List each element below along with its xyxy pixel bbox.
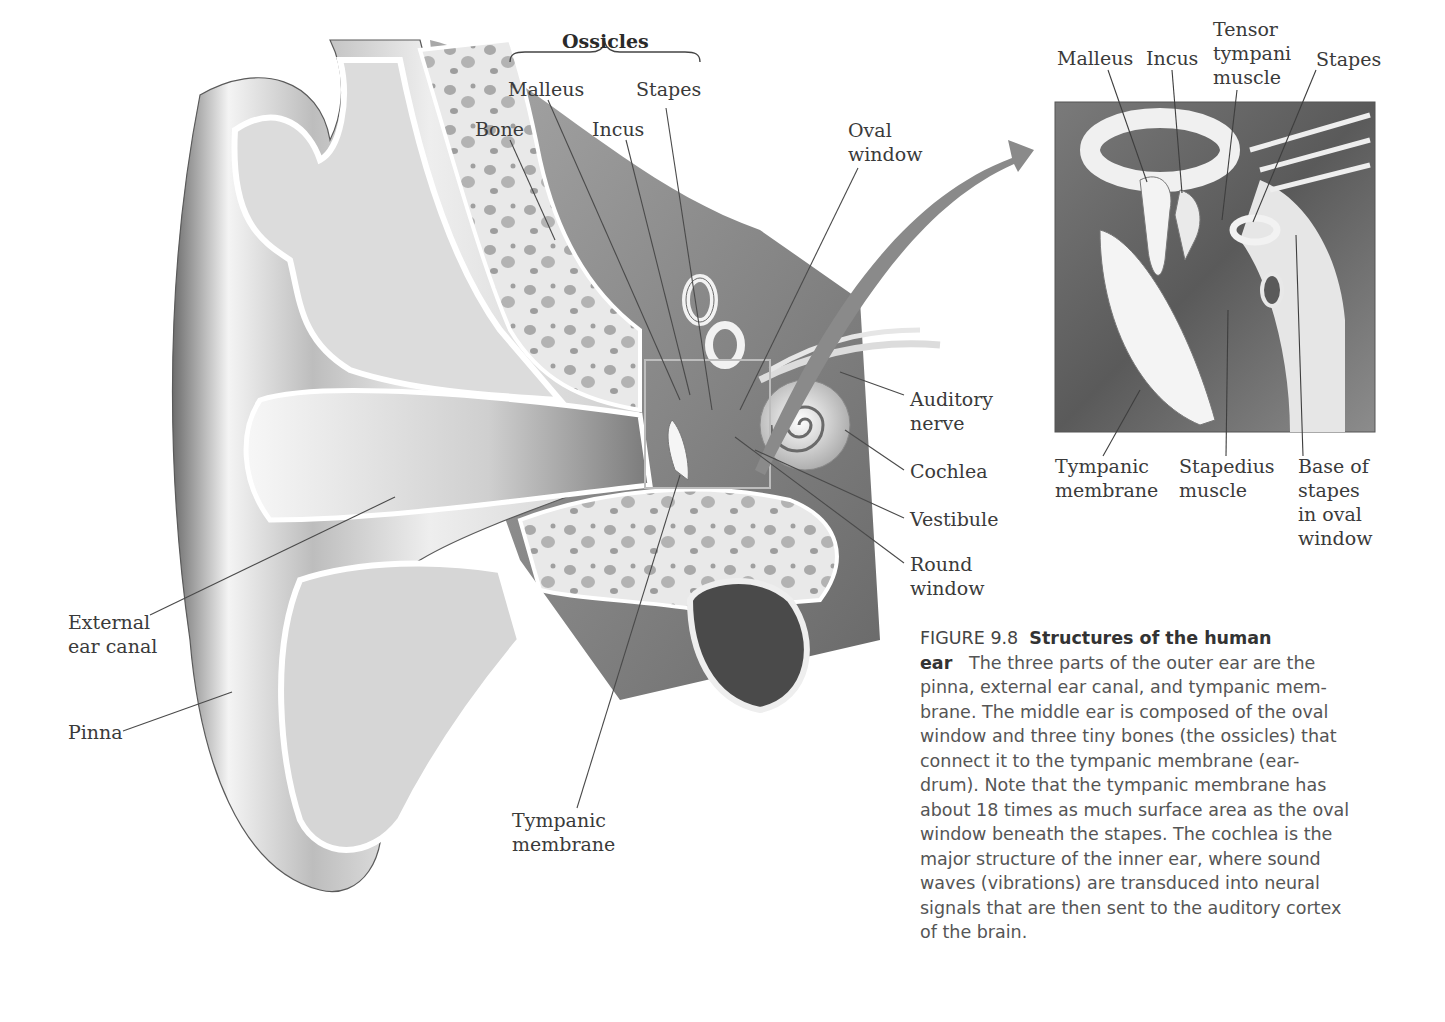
label-bone: Bone (475, 117, 524, 141)
inset-magnified-view (1055, 70, 1375, 456)
label-incus: Incus (592, 117, 644, 141)
caption-line: connect it to the tympanic membrane (ear… (920, 751, 1299, 771)
label-tympanic-membrane: Tympanic membrane (512, 808, 615, 856)
caption-body: ear The three parts of the outer ear are… (920, 651, 1380, 945)
inset-label-malleus: Malleus (1057, 46, 1133, 70)
caption-line: brane. The middle ear is composed of the… (920, 702, 1328, 722)
inset-label-stapedius-muscle: Stapedius muscle (1179, 454, 1275, 502)
inset-label-base-of-stapes: Base of stapes in oval window (1298, 454, 1372, 550)
caption-line: major structure of the inner ear, where … (920, 849, 1321, 869)
label-stapes: Stapes (636, 77, 701, 101)
caption-line: of the brain. (920, 922, 1027, 942)
caption-line: about 18 times as much surface area as t… (920, 800, 1349, 820)
label-malleus: Malleus (508, 77, 584, 101)
label-cochlea: Cochlea (910, 459, 988, 483)
caption-line: waves (vibrations) are transduced into n… (920, 873, 1320, 893)
label-ossicles: Ossicles (562, 29, 649, 53)
figure-title-line1: Structures of the human (1029, 628, 1271, 648)
label-vestibule: Vestibule (910, 507, 998, 531)
caption-line: window beneath the stapes. The cochlea i… (920, 824, 1332, 844)
inset-label-incus: Incus (1146, 46, 1198, 70)
label-round-window: Round window (910, 552, 984, 600)
caption-title-line: FIGURE 9.8 Structures of the human (920, 626, 1380, 651)
figure-caption: FIGURE 9.8 Structures of the human ear T… (920, 626, 1380, 945)
caption-line: window and three tiny bones (the ossicle… (920, 726, 1337, 746)
figure-title-line2: ear (920, 653, 952, 673)
inset-label-stapes: Stapes (1316, 47, 1381, 71)
caption-line: signals that are then sent to the audito… (920, 898, 1341, 918)
label-auditory-nerve: Auditory nerve (910, 387, 993, 435)
caption-line: The three parts of the outer ear are the (969, 653, 1315, 673)
inset-label-tensor-tympani-muscle: Tensor tympani muscle (1213, 17, 1291, 89)
label-oval-window: Oval window (848, 118, 922, 166)
figure-number: FIGURE 9.8 (920, 628, 1018, 648)
caption-line: drum). Note that the tympanic membrane h… (920, 775, 1326, 795)
label-external-ear-canal: External ear canal (68, 610, 157, 658)
label-pinna: Pinna (68, 720, 123, 744)
inset-label-tympanic-membrane: Tympanic membrane (1055, 454, 1158, 502)
caption-line: pinna, external ear canal, and tympanic … (920, 677, 1327, 697)
